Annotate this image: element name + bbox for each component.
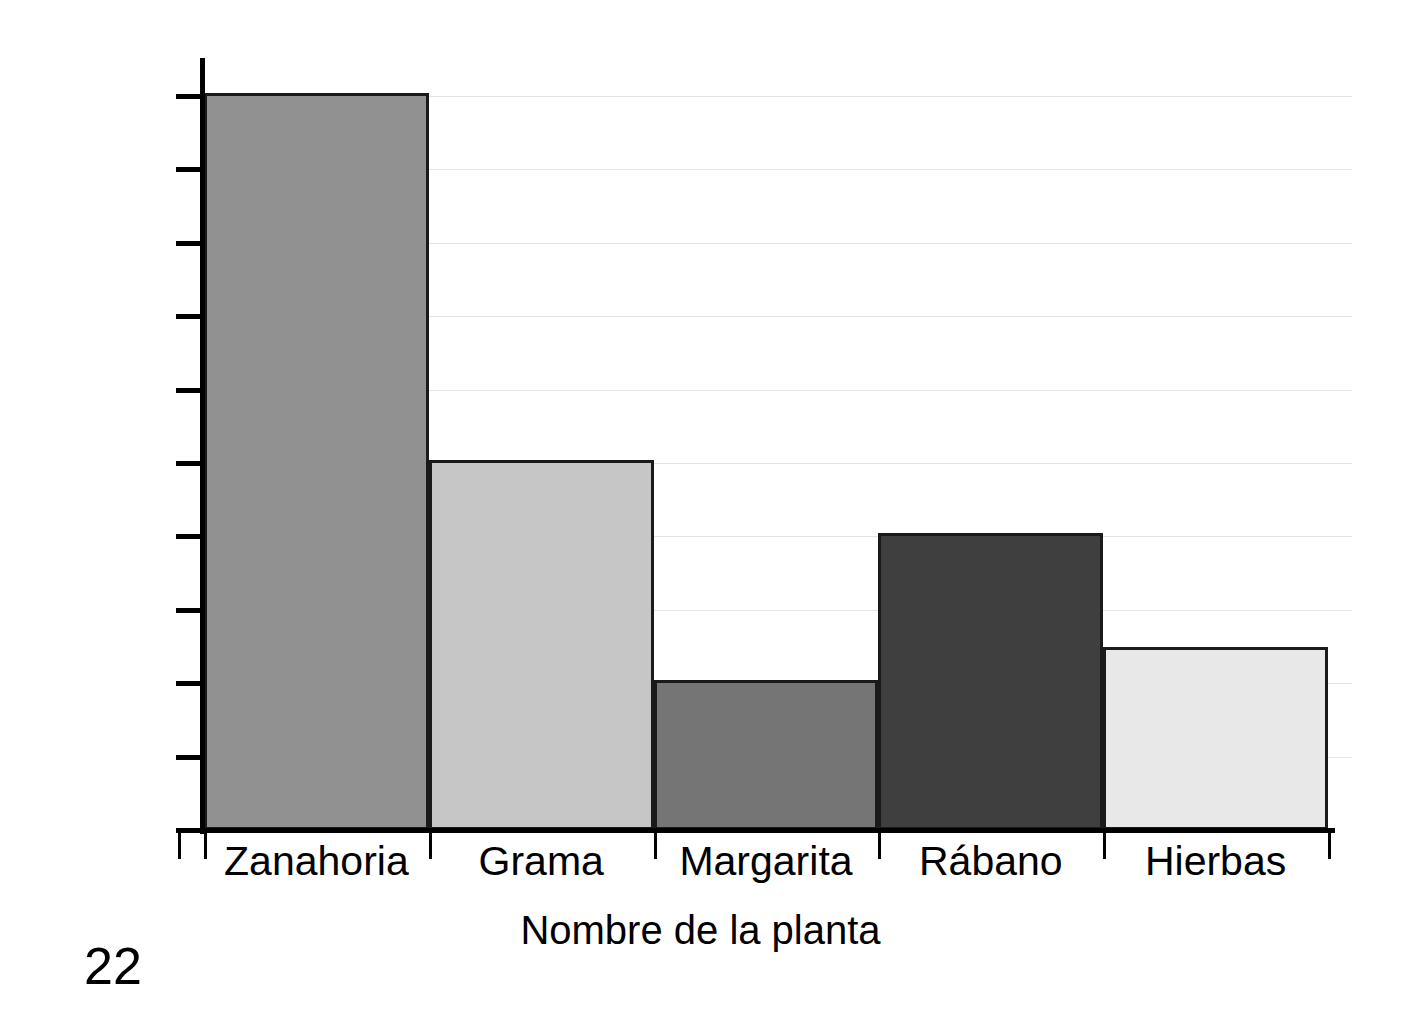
y-axis-tick [176,167,202,172]
bars-container [204,60,1328,830]
bar-margarita [654,680,879,830]
x-axis-line [176,828,1335,833]
bar-chart-figure: Longitud de la raíz (pulg) ZanahoriaGram… [0,0,1401,1025]
x-axis-title: Nombre de la planta [0,908,1401,953]
y-axis-tick [176,388,202,393]
y-axis-tick [176,241,202,246]
x-category-label: Margarita [654,838,879,885]
y-axis-tick [176,534,202,539]
page-number: 22 [84,936,142,996]
y-axis-tick [176,461,202,466]
bar-grama [429,460,654,830]
y-axis-title: Longitud de la raíz (pulg) [0,0,170,830]
x-category-label: Zanahoria [204,838,429,885]
x-category-label: Hierbas [1103,838,1328,885]
x-category-label: Grama [429,838,654,885]
y-axis-tick [176,755,202,760]
x-axis-category-labels: ZanahoriaGramaMargaritaRábanoHierbas [176,838,1336,898]
x-category-label: Rábano [878,838,1103,885]
y-axis-tick [176,314,202,319]
y-axis-line [200,58,205,834]
y-axis-tick [176,681,202,686]
bar-zanahoria [204,93,429,830]
y-axis-tick [176,608,202,613]
bar-rábano [878,533,1103,830]
bar-hierbas [1103,647,1328,830]
y-axis-tick [176,94,202,99]
